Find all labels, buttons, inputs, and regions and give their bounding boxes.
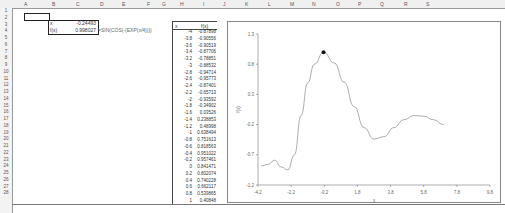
- cell-x[interactable]: -1.2: [184, 124, 192, 131]
- row-header-17[interactable]: 17: [0, 116, 12, 123]
- cell-fx[interactable]: -0.93592: [198, 97, 216, 104]
- column-header-c[interactable]: C: [76, 1, 80, 7]
- row-header-2[interactable]: 2: [0, 15, 12, 22]
- cell-fx[interactable]: 0.03526: [200, 110, 216, 117]
- row-header-6[interactable]: 6: [0, 42, 12, 49]
- cell-x[interactable]: -1.4: [184, 117, 192, 124]
- column-header-d[interactable]: D: [100, 1, 104, 7]
- column-header-j[interactable]: J: [223, 1, 226, 7]
- cell-fx[interactable]: -0.94714: [198, 70, 216, 77]
- row-header-7[interactable]: 7: [0, 49, 12, 56]
- column-header-b[interactable]: B: [52, 1, 55, 7]
- cell-fx[interactable]: 0.539865: [197, 191, 216, 198]
- column-header-q[interactable]: Q: [380, 1, 384, 7]
- cell-fx[interactable]: 0.841471: [197, 164, 216, 171]
- column-header-o[interactable]: O: [336, 1, 340, 7]
- cell-fx[interactable]: 0.818563: [197, 144, 216, 151]
- cell-fx[interactable]: -0.95773: [198, 76, 216, 83]
- cell-x[interactable]: 0.8: [186, 191, 192, 198]
- column-header-f[interactable]: F: [147, 1, 150, 7]
- row-header-12[interactable]: 12: [0, 82, 12, 89]
- cell-x[interactable]: -1: [188, 130, 192, 137]
- cell-x[interactable]: -2: [188, 97, 192, 104]
- cell-b2-label[interactable]: x: [50, 20, 53, 26]
- row-header-3[interactable]: 3: [0, 22, 12, 29]
- row-header-9[interactable]: 9: [0, 62, 12, 69]
- cell-x[interactable]: -3.4: [184, 49, 192, 56]
- cell-d3-formula[interactable]: =SIN(COS(-(EXP(x/4)))): [98, 27, 152, 33]
- row-header-19[interactable]: 19: [0, 130, 12, 137]
- row-header-27[interactable]: 27: [0, 184, 12, 191]
- cell-fx[interactable]: -0.87706: [198, 49, 216, 56]
- column-header-h[interactable]: H: [180, 1, 184, 7]
- cell-x[interactable]: 0: [189, 164, 192, 171]
- cell-x[interactable]: -3.2: [184, 56, 192, 63]
- column-header-p[interactable]: P: [358, 1, 361, 7]
- row-header-28[interactable]: 28: [0, 190, 12, 197]
- cell-x[interactable]: -2.6: [184, 76, 192, 83]
- row-header-10[interactable]: 10: [0, 69, 12, 76]
- row-header-13[interactable]: 13: [0, 89, 12, 96]
- row-header-4[interactable]: 4: [0, 28, 12, 35]
- cell-fx[interactable]: 0.740228: [197, 178, 216, 185]
- chart[interactable]: 1.30.80.3-0.2-0.7-1.2-4.2-2.2-0.21.83.85…: [227, 21, 501, 203]
- cell-x[interactable]: -0.6: [184, 144, 192, 151]
- column-header-a[interactable]: A: [24, 1, 27, 7]
- row-header-8[interactable]: 8: [0, 55, 12, 62]
- cell-fx[interactable]: 0.662117: [198, 184, 216, 191]
- cell-fx[interactable]: 0.802074: [197, 171, 216, 178]
- cell-x[interactable]: -1.6: [184, 110, 192, 117]
- row-header-25[interactable]: 25: [0, 170, 12, 177]
- cell-fx[interactable]: 0.951022: [197, 151, 216, 158]
- cell-x[interactable]: -1.8: [184, 103, 192, 110]
- cell-x[interactable]: -3: [188, 63, 192, 70]
- row-header-1[interactable]: 1: [0, 8, 12, 15]
- cell-x[interactable]: -0.2: [184, 157, 192, 164]
- row-header-11[interactable]: 11: [0, 76, 12, 83]
- cell-fx[interactable]: -0.87401: [198, 83, 216, 90]
- row-header-21[interactable]: 21: [0, 143, 12, 150]
- cell-x[interactable]: 0.2: [186, 171, 192, 178]
- cell-x[interactable]: -0.4: [184, 151, 192, 158]
- cell-fx[interactable]: 0.957461: [197, 157, 216, 164]
- column-header-r[interactable]: R: [404, 1, 408, 7]
- cell-x[interactable]: 0.6: [186, 184, 192, 191]
- cell-fx[interactable]: -0.87898: [198, 29, 216, 36]
- cell-x[interactable]: -3.8: [184, 36, 192, 43]
- row-header-5[interactable]: 5: [0, 35, 12, 42]
- column-header-l[interactable]: L: [268, 1, 271, 7]
- column-header-s[interactable]: S: [426, 1, 429, 7]
- row-header-23[interactable]: 23: [0, 157, 12, 164]
- row-header-20[interactable]: 20: [0, 136, 12, 143]
- cell-fx[interactable]: -0.34902: [198, 103, 216, 110]
- column-header-g[interactable]: G: [162, 1, 166, 7]
- row-header-14[interactable]: 14: [0, 96, 12, 103]
- cell-fx[interactable]: 0.48998: [200, 124, 216, 131]
- row-header-15[interactable]: 15: [0, 103, 12, 110]
- row-header-16[interactable]: 16: [0, 109, 12, 116]
- cell-x[interactable]: 0.4: [186, 178, 192, 185]
- cell-fx[interactable]: 0.638494: [197, 130, 216, 137]
- cell-fx[interactable]: -0.65713: [198, 90, 216, 97]
- cell-x[interactable]: -0.8: [184, 137, 192, 144]
- column-header-m[interactable]: M: [290, 1, 294, 7]
- cell-x[interactable]: -2.2: [184, 90, 192, 97]
- cell-fx[interactable]: -0.88532: [198, 63, 216, 70]
- column-header-e[interactable]: E: [122, 1, 125, 7]
- row-header-22[interactable]: 22: [0, 150, 12, 157]
- row-header-26[interactable]: 26: [0, 177, 12, 184]
- cell-c3-fx-value[interactable]: 0.998027: [70, 27, 96, 33]
- row-header-18[interactable]: 18: [0, 123, 12, 130]
- column-header-n[interactable]: N: [312, 1, 316, 7]
- column-header-i[interactable]: I: [203, 1, 204, 7]
- cell-x[interactable]: -2.8: [184, 70, 192, 77]
- cell-fx[interactable]: 0.751613: [197, 137, 216, 144]
- selected-cell-b1[interactable]: [24, 13, 50, 21]
- cell-fx[interactable]: -0.90556: [198, 36, 216, 43]
- cell-fx[interactable]: -0.90519: [198, 43, 216, 50]
- cell-fx[interactable]: 0.238853: [197, 117, 216, 124]
- cell-fx[interactable]: -0.78851: [198, 56, 216, 63]
- cell-x[interactable]: -2.4: [184, 83, 192, 90]
- cell-c2-x-value[interactable]: -0.24493: [70, 20, 96, 26]
- column-header-k[interactable]: K: [245, 1, 248, 7]
